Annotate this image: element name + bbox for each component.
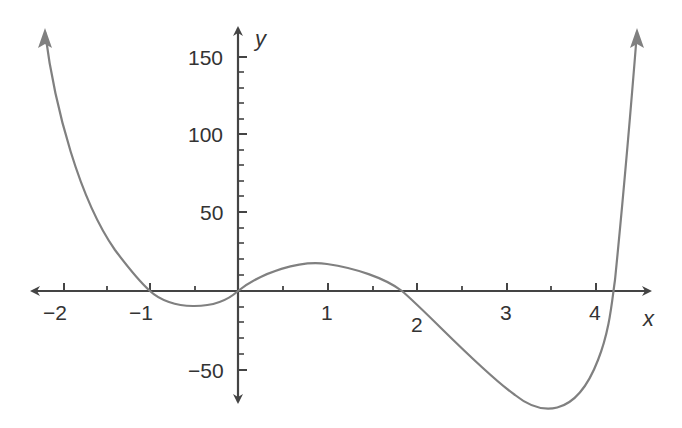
function-graph: −2 −1 1 2 3 4 x 150 100 50 −50 y xyxy=(0,0,682,428)
y-tick-label-150: 150 xyxy=(188,46,223,69)
x-axis-title: x xyxy=(642,306,655,331)
y-major-ticks xyxy=(238,57,247,370)
x-tick-label-neg1: −1 xyxy=(129,301,153,324)
x-tick-label-3: 3 xyxy=(500,301,512,324)
x-tick-label-2: 2 xyxy=(411,313,423,336)
x-tick-label-1: 1 xyxy=(321,301,333,324)
y-tick-label-50: 50 xyxy=(200,201,223,224)
y-axis xyxy=(238,28,247,402)
x-tick-label-4: 4 xyxy=(589,301,601,324)
y-tick-label-100: 100 xyxy=(188,123,223,146)
x-tick-label-neg2: −2 xyxy=(43,301,67,324)
x-axis xyxy=(32,283,650,291)
function-curve xyxy=(45,32,637,409)
y-tick-label-neg50: −50 xyxy=(188,359,224,382)
y-axis-title: y xyxy=(253,26,268,51)
curve-arrow-left-icon xyxy=(38,28,52,48)
